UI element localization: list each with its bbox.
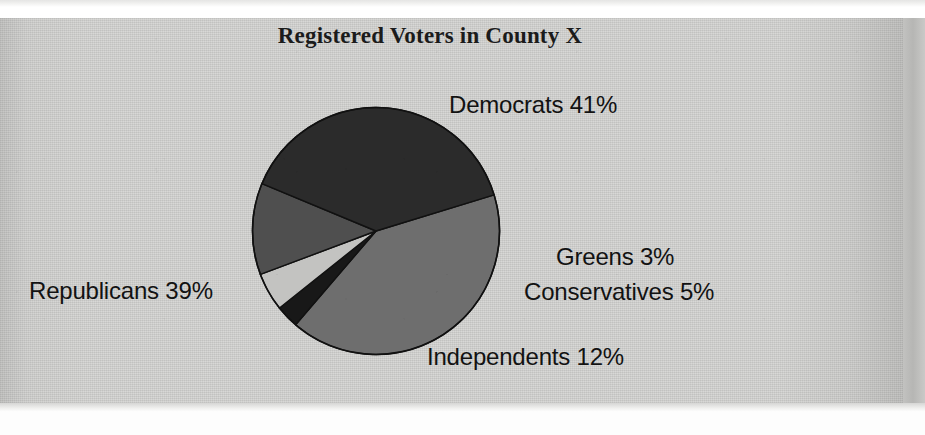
pie-slice-group [253,107,500,354]
slice-label-democrats: Democrats 41% [449,91,617,119]
scan-edge-right [903,18,925,403]
chart-title: Registered Voters in County X [0,23,860,49]
slice-label-greens: Greens 3% [556,243,674,271]
scan-bleed-top [0,0,925,7]
slice-label-republicans: Republicans 39% [29,277,213,305]
scanned-page: Registered Voters in County X Democrats … [0,0,925,435]
slice-label-independents: Independents 12% [427,343,624,371]
scan-edge-bottom [0,403,925,435]
pie-chart-svg [251,106,501,356]
slice-label-conservatives: Conservatives 5% [524,278,714,306]
pie-chart [251,106,501,356]
